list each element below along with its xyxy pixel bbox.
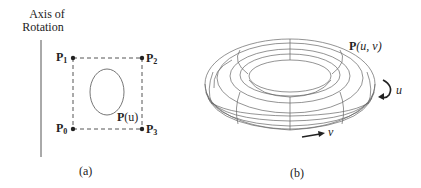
axis-label-line2: Rotation — [20, 21, 66, 34]
control-point-p3 — [140, 127, 144, 131]
label-p2: P2 — [146, 52, 157, 68]
u-label: u — [396, 84, 402, 97]
control-point-p1 — [71, 56, 75, 60]
curve-label: P(u) — [117, 111, 138, 124]
caption-b: (b) — [290, 167, 304, 180]
v-label: v — [328, 126, 333, 139]
profile-curve — [90, 69, 124, 115]
control-point-p2 — [140, 56, 144, 60]
caption-a: (a) — [79, 165, 92, 178]
v-arrowhead-icon — [318, 131, 325, 137]
surface-label: P(u, v) — [349, 40, 382, 53]
v-direction-arrow — [302, 134, 320, 137]
label-p3: P3 — [146, 123, 157, 139]
axis-label: Axis of Rotation — [28, 8, 66, 34]
u-arrowhead-icon — [378, 93, 384, 100]
label-p0: P0 — [56, 122, 67, 138]
control-point-p0 — [71, 127, 75, 131]
label-p1: P1 — [56, 51, 67, 67]
